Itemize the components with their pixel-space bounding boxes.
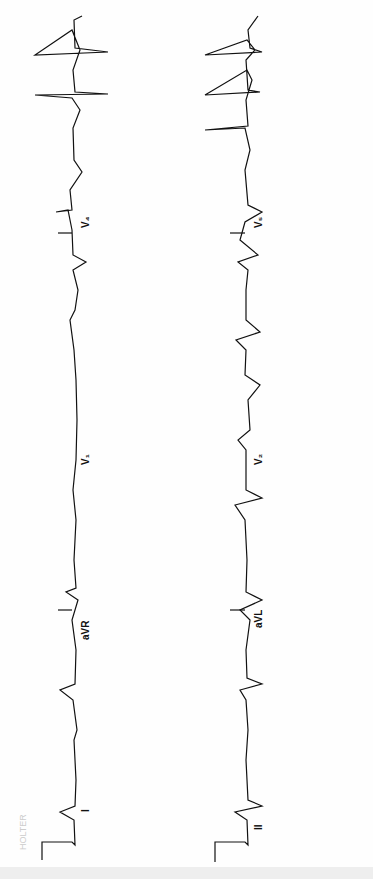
lead-label-v4: V₄ xyxy=(80,217,91,228)
faint-stamp: HOLTER xyxy=(18,814,28,850)
lead-label-v1: V₁ xyxy=(80,454,91,465)
lead-label-avr: aVR xyxy=(80,621,91,640)
ecg-page: I aVR V₁ V₄ II aVL V₂ V₅ HOLTER xyxy=(0,0,373,879)
ecg-traces xyxy=(0,0,373,879)
lead-label-v2: V₂ xyxy=(253,454,264,465)
strip-upper xyxy=(35,16,108,860)
lead-label-i: I xyxy=(80,809,91,812)
lead-label-v5: V₅ xyxy=(253,217,264,228)
bottom-edge xyxy=(0,867,373,879)
strip-lower xyxy=(205,16,262,862)
lead-label-ii: II xyxy=(253,824,264,830)
lead-label-avl: aVL xyxy=(253,610,264,628)
